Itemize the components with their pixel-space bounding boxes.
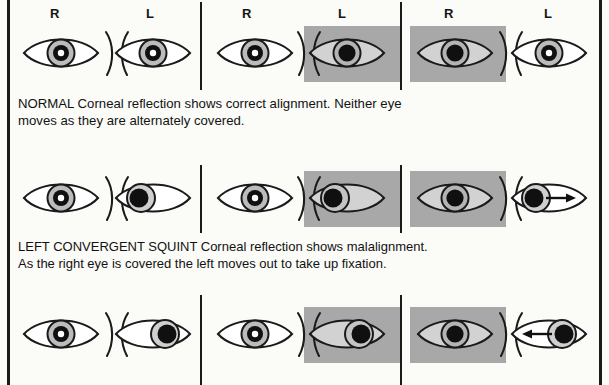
eye-icon [20,175,102,221]
panel-squint-uncovered [12,165,200,235]
column-divider-2 [400,295,402,385]
eye-icon [20,311,102,357]
eye-left-covered [306,30,388,76]
panel-normal-right-covered: R L [408,0,597,92]
column-divider-2 [400,2,402,90]
label-right-eye: R [50,6,60,21]
panel-normal-uncovered: R L [12,0,200,92]
eye-icon [112,30,194,76]
panel-divergent-right-covered [408,295,597,385]
caption-normal-line1: NORMAL Corneal reflection shows correct … [18,95,593,112]
eye-left-moving-in [508,311,590,357]
eye-icon [112,311,194,357]
figure-border-left [7,0,10,385]
eye-icon [414,175,496,221]
label-left-eye: L [338,6,346,21]
eye-right [214,30,296,76]
row-left-convergent-squint [12,165,597,235]
eye-icon [214,311,296,357]
eye-left-deviated-out [112,311,194,357]
eye-icon [306,30,388,76]
eye-icon [112,175,194,221]
eye-right-covered [414,175,496,221]
eye-icon [20,30,102,76]
column-divider-1 [200,165,202,233]
eye-right [20,311,102,357]
label-left-eye: L [146,6,154,21]
eye-left-covered-deviated-out [306,311,388,357]
label-right-eye: R [444,6,454,21]
eye-icon [214,30,296,76]
eye-right [20,175,102,221]
eye-icon [414,30,496,76]
eye-icon [214,175,296,221]
caption-left-convergent-squint: LEFT CONVERGENT SQUINT Corneal reflectio… [18,238,593,272]
cover-test-figure: R L [0,0,609,385]
figure-border-right [599,0,602,385]
eye-icon [508,30,590,76]
column-divider-2 [400,165,402,233]
caption-normal-line2: moves as they are alternately covered. [18,112,593,129]
panel-squint-right-covered [408,165,597,235]
eye-icon [306,311,388,357]
panel-divergent-uncovered [12,295,200,385]
eye-icon [306,175,388,221]
eye-icon [508,311,590,357]
panel-divergent-left-covered [208,295,400,385]
panel-normal-left-covered: R L [208,0,400,92]
eye-right-covered [414,30,496,76]
eye-left [508,30,590,76]
eye-left-covered-deviated-in [306,175,388,221]
caption-squint-line1: LEFT CONVERGENT SQUINT Corneal reflectio… [18,238,593,255]
eye-right [214,175,296,221]
eye-icon [414,311,496,357]
panel-squint-left-covered [208,165,400,235]
eye-right [214,311,296,357]
caption-squint-line2: As the right eye is covered the left mov… [18,255,593,272]
eye-right [20,30,102,76]
eye-left-deviated-in [112,175,194,221]
row-left-divergent-squint [12,295,597,385]
eye-left-moving-out [508,175,590,221]
label-right-eye: R [242,6,252,21]
label-left-eye: L [544,6,552,21]
eye-right-covered [414,311,496,357]
column-divider-1 [200,2,202,90]
eye-icon [508,175,590,221]
caption-normal: NORMAL Corneal reflection shows correct … [18,95,593,129]
row-normal: R L [12,0,597,92]
eye-left [112,30,194,76]
column-divider-1 [200,295,202,385]
